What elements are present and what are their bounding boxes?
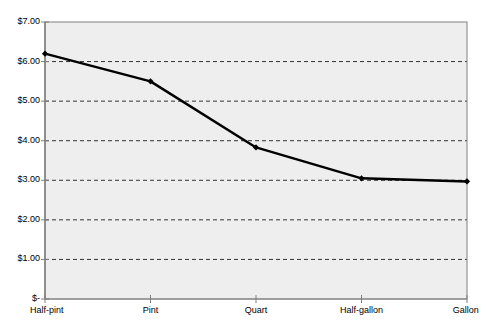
x-axis-tick-label: Half-pint [30, 306, 64, 315]
x-axis-tick-label: Quart [245, 306, 268, 315]
x-axis-tick-label: Gallon [453, 306, 479, 315]
x-axis-tick-label: Half-gallon [340, 306, 383, 315]
x-axis-tick-label: Pint [143, 306, 159, 315]
line-chart: $7.00$6.00$5.00$4.00$3.00$2.00$1.00$- Ha… [0, 0, 486, 327]
x-axis-tick-labels: Half-pintPintQuartHalf-gallonGallon [0, 0, 486, 327]
